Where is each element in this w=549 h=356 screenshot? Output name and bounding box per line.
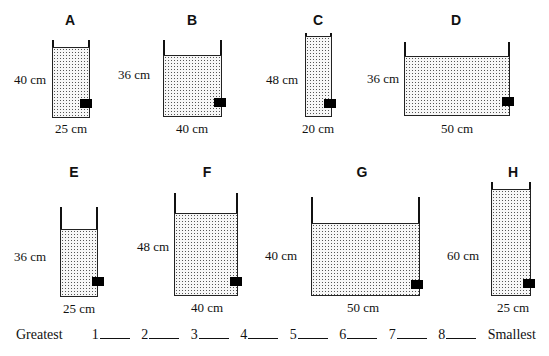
answer-blank[interactable] [298,326,328,339]
width-dimension: 20 cm [302,121,334,137]
water-fill [311,223,420,296]
rank-slot-3[interactable]: 3 [191,327,229,342]
width-dimension: 50 cm [441,121,473,137]
answer-blank[interactable] [100,326,130,339]
height-dimension: 48 cm [266,72,298,88]
height-dimension: 40 cm [265,248,297,264]
block-object [324,99,336,108]
answer-blank[interactable] [347,326,377,339]
block-object [523,279,535,288]
height-dimension: 40 cm [14,72,46,88]
diagram: A 40 cm 25 cm B 36 cm 40 cm C 48 cm 20 c… [0,0,549,356]
greatest-label: Greatest [16,327,63,342]
rank-slot-6[interactable]: 6 [339,327,377,342]
answer-blank[interactable] [248,326,278,339]
ranking-answer-line: Greatest 1 2 3 4 5 6 7 8 Smallest [16,326,536,343]
block-object [92,277,104,286]
width-dimension: 50 cm [347,300,379,316]
width-dimension: 40 cm [191,300,223,316]
container-label: A [65,12,75,28]
container-label: F [203,164,212,180]
block-object [411,280,423,289]
smallest-label: Smallest [488,327,536,342]
container-label: E [69,164,78,180]
answer-blank[interactable] [397,326,427,339]
water-fill [174,213,238,296]
width-dimension: 25 cm [55,121,87,137]
container-label: G [357,164,368,180]
container-label: C [313,12,323,28]
width-dimension: 25 cm [497,300,529,316]
container-label: D [451,12,461,28]
answer-blank[interactable] [199,326,229,339]
answer-blank[interactable] [446,326,476,339]
rank-slot-7[interactable]: 7 [389,327,427,342]
height-dimension: 36 cm [367,71,399,87]
height-dimension: 36 cm [118,67,150,83]
container-label: H [508,164,518,180]
water-fill [404,56,510,116]
height-dimension: 36 cm [14,249,46,265]
width-dimension: 25 cm [63,301,95,317]
water-fill [60,229,98,297]
container-label: B [187,12,197,28]
rank-slot-4[interactable]: 4 [240,327,278,342]
height-dimension: 48 cm [137,239,169,255]
block-object [230,277,242,286]
block-object [80,99,92,108]
height-dimension: 60 cm [447,248,479,264]
rank-slot-2[interactable]: 2 [141,327,179,342]
rank-slot-5[interactable]: 5 [290,327,328,342]
answer-blank[interactable] [149,326,179,339]
rank-slot-1[interactable]: 1 [92,327,130,342]
rank-slot-8[interactable]: 8 [438,327,476,342]
water-fill [163,55,222,117]
width-dimension: 40 cm [176,121,208,137]
block-object [502,97,514,106]
block-object [214,98,226,107]
